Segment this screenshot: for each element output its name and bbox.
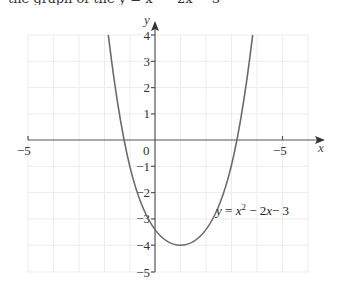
y-tick-label-neg1: −1 bbox=[136, 159, 150, 174]
y-tick-label-1: 1 bbox=[144, 106, 151, 121]
parabola-chart: x y −5 −5 0 4 3 2 1 −1 −2 −3 −4 −5 y = x… bbox=[0, 0, 337, 291]
x-axis-label: x bbox=[317, 140, 324, 155]
y-tick-label-neg5: −5 bbox=[136, 265, 150, 280]
y-axis bbox=[151, 29, 155, 272]
y-tick-label-neg4: −4 bbox=[136, 238, 150, 253]
x-axis bbox=[28, 136, 318, 140]
y-tick-label-2: 2 bbox=[144, 80, 151, 95]
eq-equals: = bbox=[222, 203, 236, 218]
y-tick-label-3: 3 bbox=[144, 54, 151, 69]
origin-label: 0 bbox=[143, 143, 150, 158]
x-tick-label-left: −5 bbox=[17, 143, 31, 158]
eq-term3: − 3 bbox=[272, 203, 289, 218]
eq-term2: − 2 bbox=[246, 203, 266, 218]
y-axis-label: y bbox=[142, 12, 150, 27]
y-tick-label-neg2: −2 bbox=[136, 185, 150, 200]
equation-label: y = x2 − 2x− 3 bbox=[214, 202, 289, 218]
grid bbox=[28, 35, 308, 272]
x-tick-label-right: −5 bbox=[273, 143, 287, 158]
y-tick-label-4: 4 bbox=[144, 28, 151, 43]
